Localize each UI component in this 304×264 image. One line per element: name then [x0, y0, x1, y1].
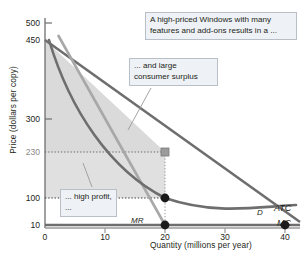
x-tick-label-0: 0	[35, 232, 55, 242]
economics-chart-figure: 500 450 300 230 100 10 0 10 20 30 40 Pri…	[0, 0, 304, 264]
y-tick-label-500: 500	[6, 18, 40, 28]
y-tick-label-100: 100	[6, 193, 40, 203]
curve-label-marginal-revenue: MR	[131, 216, 143, 225]
x-tick-label-40: 40	[275, 232, 295, 242]
callout-high-profit: ... high profit, ...	[60, 189, 117, 217]
mr-zero-point-marker	[161, 221, 170, 230]
y-tick-label-10: 10	[6, 220, 40, 230]
curve-label-mc: MC	[277, 218, 291, 228]
callout-high-price: A high-priced Windows with many features…	[145, 12, 297, 40]
callout-consumer-surplus: ... and large consumer surplus	[129, 58, 218, 86]
y-tick-label-450: 450	[6, 35, 40, 45]
y-axis-title: Price (dollars per copy)	[8, 50, 18, 170]
price-point-marker	[161, 148, 169, 156]
x-axis-title: Quantity (millions per year)	[150, 240, 252, 250]
cost-point-marker	[161, 194, 170, 203]
curve-label-demand: D	[257, 208, 263, 217]
curve-label-atc: ATC	[274, 203, 291, 213]
x-tick-label-10: 10	[95, 232, 115, 242]
leader-line-surplus	[128, 88, 151, 130]
